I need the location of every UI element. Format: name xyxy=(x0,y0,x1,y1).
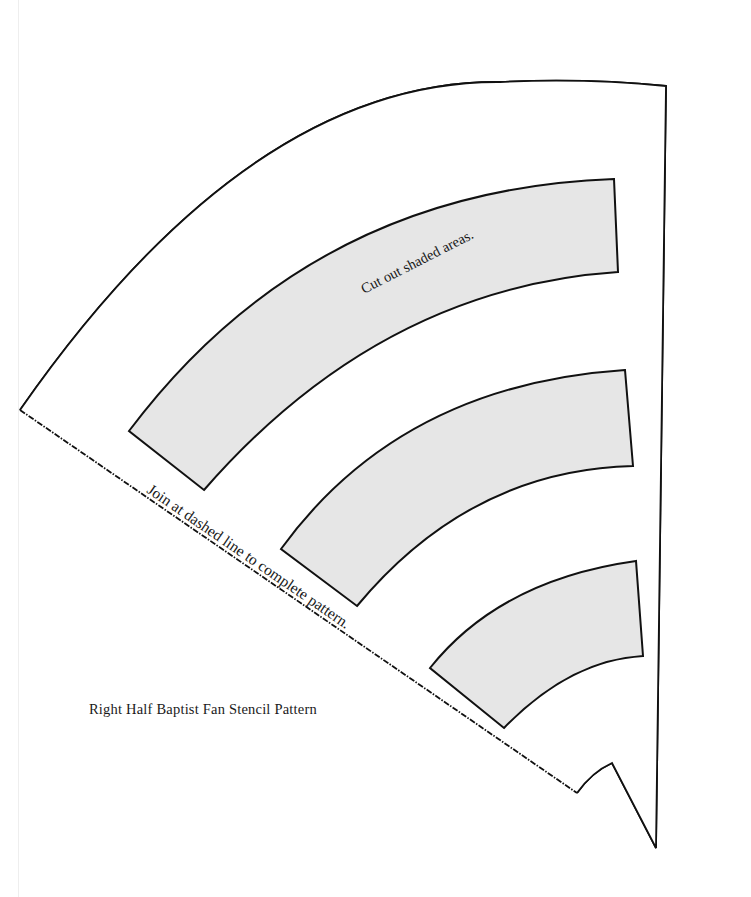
fan-stencil-diagram: Cut out shaded areas. Join at dashed lin… xyxy=(0,0,751,897)
pattern-title-caption: Right Half Baptist Fan Stencil Pattern xyxy=(89,701,317,718)
